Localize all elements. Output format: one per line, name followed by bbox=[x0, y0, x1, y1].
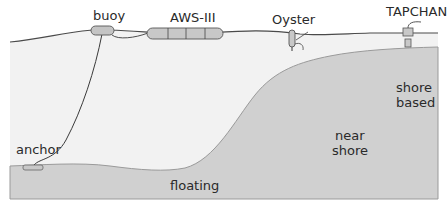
anchor-icon bbox=[23, 165, 43, 170]
figure-caption-cutoff bbox=[14, 208, 434, 214]
aws-iii-label: AWS-III bbox=[170, 10, 215, 25]
shore-based-label-line1: shore bbox=[396, 80, 432, 95]
shore-based-label-line2: based bbox=[396, 95, 435, 110]
near-shore-label-line1: near bbox=[335, 128, 365, 143]
oyster-label: Oyster bbox=[272, 12, 316, 27]
aws-iii-device bbox=[147, 28, 223, 39]
near-shore-label-line2: shore bbox=[332, 143, 368, 158]
anchor-label: anchor bbox=[16, 142, 62, 157]
wave-energy-device-diagram: buoy AWS-III Oyster TAPCHAN anchor float… bbox=[0, 0, 448, 214]
floating-label: floating bbox=[170, 178, 219, 193]
tapchan-label: TAPCHAN bbox=[385, 4, 447, 19]
buoy-icon bbox=[91, 26, 114, 35]
buoy-label: buoy bbox=[93, 8, 125, 23]
